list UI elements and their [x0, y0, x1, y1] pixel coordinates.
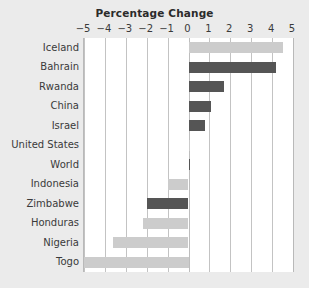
y-axis-category-labels: IcelandBahrainRwandaChinaIsraelUnited St… [0, 38, 79, 272]
x-tick-label: −2 [138, 22, 153, 35]
x-tick-label: 0 [184, 22, 190, 35]
bar [168, 179, 189, 190]
y-category-label: Togo [56, 256, 79, 268]
x-tick-label: 4 [268, 22, 274, 35]
y-category-label: Iceland [43, 42, 79, 54]
y-category-label: Rwanda [39, 81, 79, 93]
x-tick-label: −1 [159, 22, 174, 35]
x-tick-label: 1 [205, 22, 211, 35]
y-category-label: Indonesia [31, 178, 79, 190]
y-category-label: China [50, 100, 79, 112]
bar [189, 81, 225, 92]
y-category-label: Nigeria [43, 237, 79, 249]
bar [83, 257, 189, 268]
x-tick-label: 5 [289, 22, 295, 35]
y-category-label: United States [11, 139, 79, 151]
gridline [293, 38, 294, 272]
y-category-label: Zimbabwe [26, 198, 79, 210]
y-category-label: Honduras [31, 217, 79, 229]
bar [189, 140, 191, 151]
x-axis-tick-labels: −5−4−3−2−1012345 [0, 22, 309, 36]
bar [189, 120, 206, 131]
bars-layer [84, 38, 293, 272]
plot-area [83, 38, 294, 272]
bar [189, 62, 277, 73]
bar [189, 159, 191, 170]
x-tick-label: −5 [76, 22, 91, 35]
y-category-label: World [50, 159, 79, 171]
x-tick-label: 2 [226, 22, 232, 35]
y-category-label: Bahrain [40, 61, 79, 73]
y-category-label: Israel [52, 120, 79, 132]
percentage-change-chart: Percentage Change −5−4−3−2−1012345 Icela… [0, 0, 309, 288]
chart-title: Percentage Change [0, 7, 309, 19]
x-tick-label: −4 [97, 22, 112, 35]
bar [143, 218, 189, 229]
x-tick-label: −3 [117, 22, 132, 35]
x-tick-label: 3 [247, 22, 253, 35]
bar [147, 198, 189, 209]
bar [113, 237, 188, 248]
bar [189, 101, 212, 112]
bar [189, 42, 283, 53]
